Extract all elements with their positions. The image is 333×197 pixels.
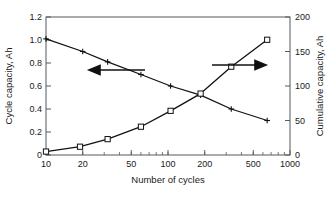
y-tick-label: 0 <box>37 150 42 160</box>
x-tick-label: 50 <box>126 159 136 169</box>
data-point-marker <box>138 124 143 129</box>
y-tick-label: 1.0 <box>29 35 42 45</box>
data-point-marker <box>168 108 173 113</box>
data-point-marker <box>77 144 82 149</box>
y2-tick-label: 100 <box>295 81 310 91</box>
x-tick-label: 20 <box>78 159 88 169</box>
data-point-marker <box>43 149 48 154</box>
y2-tick-label: 200 <box>295 12 310 22</box>
y-tick-label: 0.2 <box>29 127 42 137</box>
x-tick-label: 10 <box>41 159 51 169</box>
y2-tick-label: 0 <box>295 150 300 160</box>
x-tick-label: 200 <box>197 159 212 169</box>
y2-tick-label: 50 <box>295 116 305 126</box>
series-line-1 <box>46 40 267 152</box>
y-tick-label: 1.2 <box>29 12 42 22</box>
x-tick-label: 100 <box>160 159 175 169</box>
data-point-marker <box>265 37 270 42</box>
y2-axis-title: Cumulative capacity, Ah <box>314 36 325 137</box>
y-tick-label: 0.6 <box>29 81 42 91</box>
data-point-marker <box>198 91 203 96</box>
chart-canvas: 102050100200500100000.20.40.60.81.01.205… <box>0 0 333 197</box>
y-tick-label: 0.8 <box>29 58 42 68</box>
y-tick-label: 0.4 <box>29 104 42 114</box>
left-axis-arrow-head <box>89 66 100 75</box>
y-axis-title: Cycle capacity, Ah <box>3 48 14 125</box>
x-tick-label: 500 <box>246 159 261 169</box>
y2-tick-label: 150 <box>295 47 310 57</box>
x-tick-label: 1000 <box>280 159 300 169</box>
series-line-0 <box>46 39 267 121</box>
x-axis-title: Number of cycles <box>131 174 205 185</box>
data-point-marker <box>105 137 110 142</box>
chart-figure: 102050100200500100000.20.40.60.81.01.205… <box>0 0 333 197</box>
right-axis-arrow-head <box>255 61 266 70</box>
